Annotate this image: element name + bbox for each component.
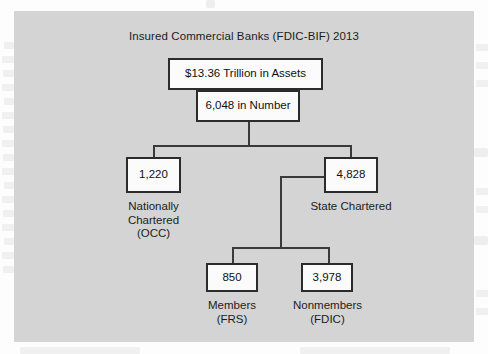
node-members: 850 (206, 263, 258, 292)
node-members-value: 850 (222, 272, 241, 284)
node-nonmembers: 3,978 (301, 263, 353, 292)
connector-state-left-stub (280, 176, 324, 178)
node-state-chartered: 4,828 (324, 157, 378, 193)
caption-nonmembers: Nonmembers (FDIC) (283, 299, 372, 326)
connector-level2-bus (232, 247, 330, 249)
node-total-number-label: 6,048 in Number (205, 100, 290, 112)
figure-panel: Insured Commercial Banks (FDIC-BIF) 2013… (14, 11, 474, 342)
node-total-number: 6,048 in Number (196, 90, 300, 122)
caption-nonmembers-line2: (FDIC) (283, 313, 372, 327)
caption-nationally-chartered-line2: Chartered (113, 214, 194, 228)
node-nationally-chartered-value: 1,220 (139, 169, 168, 181)
caption-members-line2: (FRS) (190, 313, 274, 327)
caption-members: Members (FRS) (190, 299, 274, 326)
node-nonmembers-value: 3,978 (313, 272, 342, 284)
caption-nationally-chartered-line1: Nationally (113, 200, 194, 214)
caption-state-chartered: State Chartered (299, 200, 403, 214)
figure-title: Insured Commercial Banks (FDIC-BIF) 2013 (14, 30, 474, 42)
caption-nationally-chartered: Nationally Chartered (OCC) (113, 200, 194, 241)
connector-bus-to-members (232, 247, 234, 263)
node-state-chartered-value: 4,828 (337, 169, 366, 181)
caption-members-line1: Members (190, 299, 274, 313)
node-nationally-chartered: 1,220 (126, 157, 181, 193)
caption-nonmembers-line1: Nonmembers (283, 299, 372, 313)
connector-bus-to-state (350, 145, 352, 157)
connector-number-to-bus (248, 122, 250, 145)
caption-state-chartered-line1: State Chartered (299, 200, 403, 214)
connector-bus-to-nonmembers (328, 247, 330, 263)
node-total-assets: $13.36 Trillion in Assets (168, 58, 323, 90)
connector-level1-bus (153, 145, 350, 147)
connector-state-dropdown (280, 176, 282, 247)
node-total-assets-label: $13.36 Trillion in Assets (185, 68, 306, 80)
caption-nationally-chartered-line3: (OCC) (113, 227, 194, 241)
connector-bus-to-national (153, 145, 155, 157)
